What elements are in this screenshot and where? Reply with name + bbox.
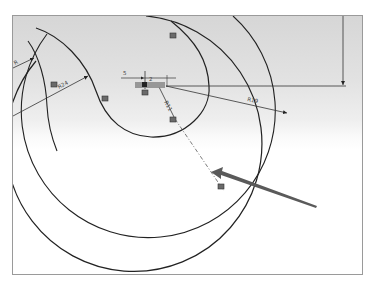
- offset-2-label[interactable]: 2: [149, 76, 153, 82]
- r-left-label[interactable]: R: [13, 59, 19, 66]
- r11-label[interactable]: R11: [163, 100, 173, 112]
- r19-label[interactable]: R19: [247, 96, 259, 104]
- tangent-constraint-icon[interactable]: [170, 33, 176, 38]
- endpoint-marker-icon[interactable]: [218, 184, 224, 189]
- sketch-svg: R R24 R19 R11 5 2: [13, 16, 363, 275]
- inner-s-curve[interactable]: [36, 21, 209, 137]
- r19-dimension-line[interactable]: [166, 86, 287, 113]
- coincident-constraint-icon[interactable]: [170, 117, 176, 122]
- pointer-arrow-icon: [211, 167, 317, 208]
- sketch-canvas[interactable]: R R24 R19 R11 5 2: [12, 15, 363, 275]
- origin-point[interactable]: [142, 82, 147, 87]
- coincident-constraint-icon[interactable]: [142, 90, 148, 95]
- center-highlight[interactable]: [135, 82, 165, 88]
- offset-5-label[interactable]: 5: [123, 70, 127, 76]
- outer-arc[interactable]: [13, 16, 262, 271]
- outer-circle[interactable]: [21, 16, 275, 238]
- r24-label[interactable]: R24: [57, 79, 70, 90]
- tangent-constraint-icon[interactable]: [102, 96, 108, 101]
